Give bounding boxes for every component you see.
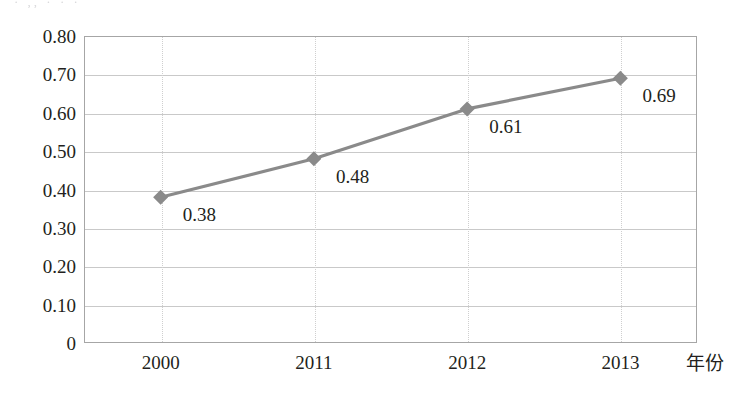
x-axis-tick-label: 2012 [412,352,522,374]
data-point-marker [153,190,168,205]
x-axis-tick-label: 2011 [259,352,369,374]
data-point-value-label: 0.38 [183,205,216,224]
y-axis-tick-label: 0.70 [12,65,76,84]
line-chart-figure: 00.100.200.300.400.500.600.700.80 0.380.… [0,0,737,413]
data-point-value-label: 0.48 [336,167,369,186]
y-axis-tick-label: 0.40 [12,181,76,200]
y-axis-tick-label: 0.10 [12,296,76,315]
data-series-layer [84,36,697,343]
data-point-value-label: 0.69 [642,86,675,105]
x-axis-tick-labels: 2000201120122013 [84,352,697,382]
x-axis-tick-label: 2000 [106,352,216,374]
y-axis-tick-label: 0 [12,334,76,353]
y-axis-tick-label: 0.80 [12,27,76,46]
y-axis-tick-label: 0.20 [12,257,76,276]
y-axis-tick-label: 0.50 [12,142,76,161]
data-point-marker [306,151,321,166]
y-axis-tick-labels: 00.100.200.300.400.500.600.700.80 [8,36,76,343]
data-point-marker [460,101,475,116]
x-axis-tick-label: 2013 [565,352,675,374]
y-axis-tick-label: 0.30 [12,219,76,238]
series-line [161,78,621,197]
y-axis-tick-label: 0.60 [12,104,76,123]
x-axis-title: 年份 [686,352,724,374]
data-point-value-label: 0.61 [489,117,522,136]
data-point-marker [613,71,628,86]
